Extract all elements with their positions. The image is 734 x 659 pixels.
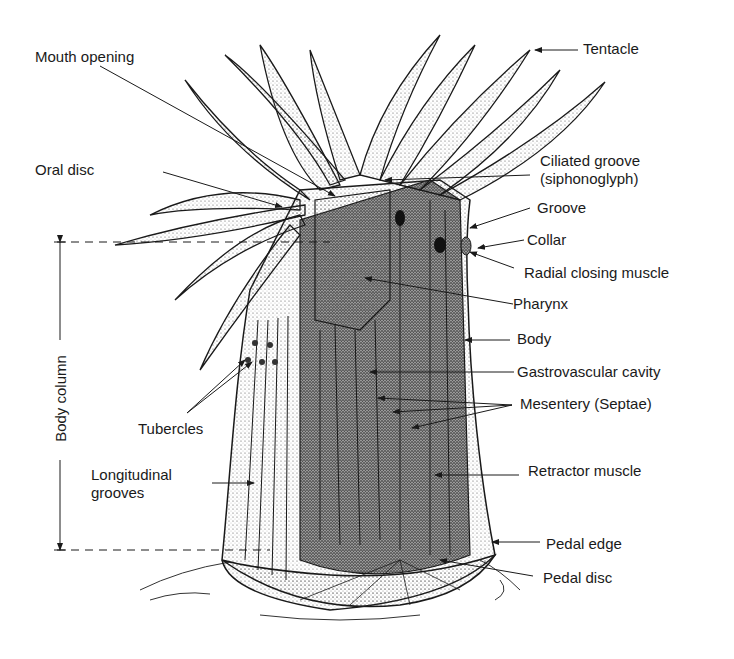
label-grooves: grooves: [91, 484, 144, 501]
label-pedal-edge: Pedal edge: [546, 535, 622, 552]
radial-closing-muscle-shape: [461, 237, 471, 255]
label-tentacle: Tentacle: [583, 40, 639, 57]
anemone-diagram: Mouth opening Oral disc Tentacle Ciliate…: [0, 0, 734, 659]
label-pedal-disc: Pedal disc: [543, 569, 612, 586]
label-body: Body: [517, 330, 551, 347]
label-ciliated-groove: Ciliated groove: [540, 152, 640, 169]
anemone-illustration: [0, 0, 734, 659]
label-mesentery: Mesentery (Septae): [520, 395, 652, 412]
pharynx-shape: [315, 190, 390, 330]
label-longitudinal: Longitudinal: [91, 466, 172, 483]
label-groove: Groove: [537, 199, 586, 216]
label-oral-disc: Oral disc: [35, 161, 94, 178]
label-pharynx: Pharynx: [513, 295, 568, 312]
label-mouth-opening: Mouth opening: [35, 48, 134, 65]
label-radial-closing-muscle: Radial closing muscle: [524, 264, 669, 281]
label-retractor-muscle: Retractor muscle: [528, 462, 641, 479]
label-gastrovascular-cavity: Gastrovascular cavity: [517, 363, 660, 380]
label-body-column: Body column: [52, 354, 69, 444]
label-collar: Collar: [527, 231, 566, 248]
pharynx-openings: [395, 210, 405, 226]
label-siphonoglyph: (siphonoglyph): [540, 170, 638, 187]
label-tubercles: Tubercles: [138, 420, 203, 437]
